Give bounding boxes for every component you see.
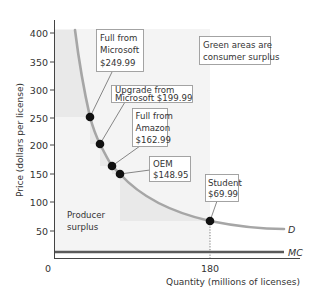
x-tick-180: 180 [201,263,219,274]
label-full-microsoft: Full from Microsoft $249.99 [97,30,144,72]
point-full-amazon [108,162,117,171]
y-tick-150: 150 [30,169,48,180]
svg-text:Full from: Full from [100,33,137,43]
svg-text:consumer surplus: consumer surplus [203,52,280,62]
svg-text:$69.99: $69.99 [208,189,238,199]
svg-text:Amazon: Amazon [136,123,171,133]
x-origin-label: 0 [45,263,51,274]
mc-label: MC [288,247,303,258]
point-student [206,217,215,226]
y-tick-100: 100 [30,197,48,208]
y-tick-200: 200 [30,140,48,151]
y-tick-350: 350 [30,57,48,68]
svg-text:Producer: Producer [67,210,106,220]
point-upgrade-microsoft [96,140,105,149]
svg-text:OEM: OEM [153,159,173,169]
label-student: Student $69.99 [206,175,243,202]
price-discrimination-chart: 400 350 300 250 200 150 100 50 0 180 Qua… [0,0,318,294]
y-tick-labels: 400 350 300 250 200 150 100 50 [30,28,48,237]
svg-text:Microsoft $199.99: Microsoft $199.99 [115,93,192,103]
x-axis-title: Quantity (millions of licenses) [166,277,300,287]
label-oem: OEM $148.95 [150,157,191,182]
svg-text:surplus: surplus [67,222,99,232]
svg-text:Full from: Full from [136,111,173,121]
svg-text:Microsoft: Microsoft [100,45,140,55]
demand-label: D [288,224,295,235]
y-tick-250: 250 [30,113,48,124]
svg-text:$162.99: $162.99 [136,135,172,145]
label-full-amazon: Full from Amazon $162.99 [133,109,173,147]
svg-text:$249.99: $249.99 [100,58,136,68]
y-tick-50: 50 [36,226,48,237]
point-full-microsoft [86,113,95,122]
svg-text:Student: Student [208,178,242,188]
y-tick-400: 400 [30,28,48,39]
y-axis-title: Price (dollars per license) [15,83,25,197]
y-tick-300: 300 [30,85,48,96]
svg-text:Green areas are: Green areas are [203,40,272,50]
point-oem [116,170,125,179]
label-upgrade-microsoft: Upgrade from Microsoft $199.99 [112,85,193,103]
consumer-surplus-note: Green areas are consumer surplus [200,37,281,65]
svg-text:$148.95: $148.95 [153,170,189,180]
